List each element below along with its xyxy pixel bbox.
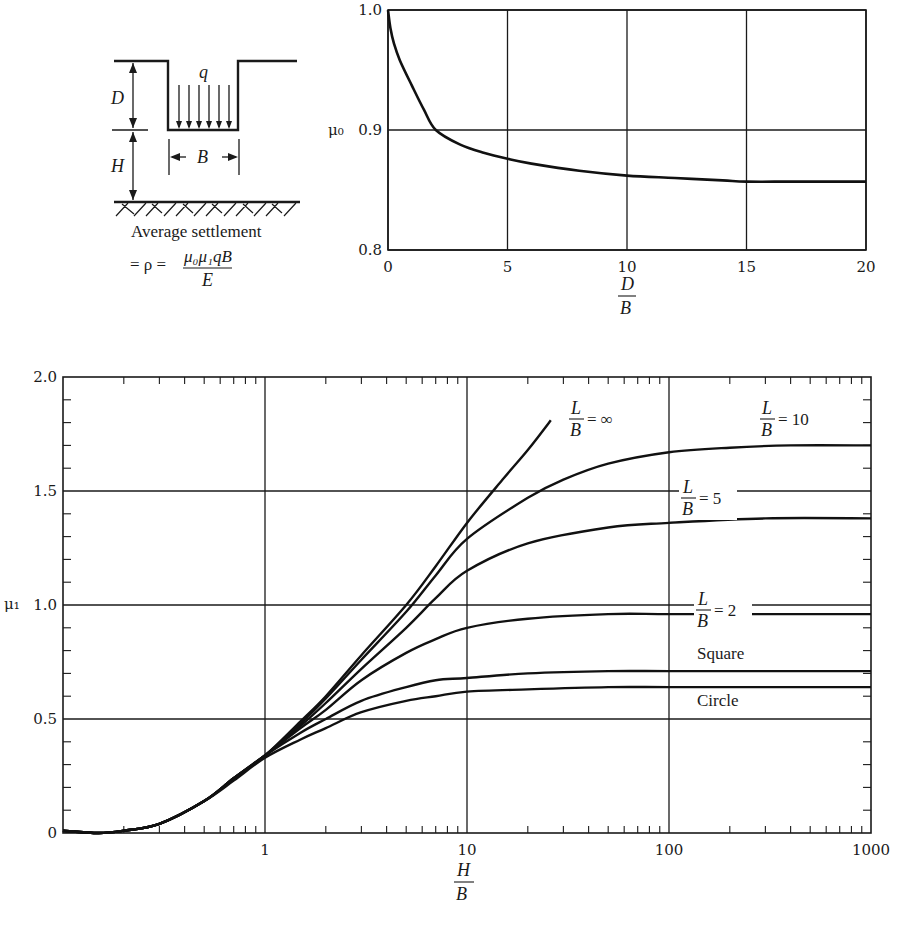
svg-text:10: 10	[457, 841, 476, 859]
svg-text:= 2: = 2	[714, 601, 736, 620]
svg-text:1.5: 1.5	[33, 482, 57, 500]
label-lb-5: LB= 5	[679, 476, 737, 520]
mu1-axis-label: μ₁	[4, 595, 20, 613]
mu1-xlabel-num: H	[456, 860, 471, 880]
svg-text:2.0: 2.0	[33, 368, 57, 386]
svg-text:B: B	[682, 499, 693, 519]
label-lb-2: LB= 2	[694, 588, 752, 632]
label-lb-10: LB= 10	[758, 397, 826, 441]
svg-text:0: 0	[47, 824, 57, 842]
svg-text:= ∞: = ∞	[587, 410, 613, 429]
svg-text:L: L	[761, 398, 772, 418]
label-lb-infinity: LB= ∞	[567, 397, 625, 441]
svg-text:B: B	[761, 420, 772, 440]
svg-text:B: B	[697, 611, 708, 631]
svg-text:= 5: = 5	[699, 489, 721, 508]
label-square: Square	[697, 644, 744, 663]
label-circle: Circle	[697, 691, 739, 710]
svg-text:100: 100	[655, 841, 684, 859]
mu1-chart: 110100100000.51.01.52.0 LB= ∞LB= 10LB= 5…	[0, 0, 907, 929]
svg-text:L: L	[682, 477, 693, 497]
svg-text:L: L	[570, 398, 581, 418]
svg-text:B: B	[570, 420, 581, 440]
svg-text:1.0: 1.0	[33, 596, 57, 614]
svg-text:1000: 1000	[852, 841, 890, 859]
mu1-xlabel-den: B	[456, 884, 467, 904]
svg-text:0.5: 0.5	[33, 710, 57, 728]
svg-text:L: L	[697, 589, 708, 609]
svg-text:= 10: = 10	[778, 410, 809, 429]
mu1-curve-labels: LB= ∞LB= 10LB= 5LB= 2SquareCircle	[567, 397, 826, 710]
svg-text:1: 1	[260, 841, 270, 859]
